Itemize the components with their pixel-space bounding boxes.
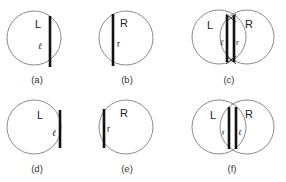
- region-label: R: [120, 17, 128, 29]
- segment-label-right: r: [236, 38, 239, 47]
- region-label: L: [37, 109, 43, 121]
- panel-e: R r (e): [99, 100, 153, 174]
- segment-label: ℓ: [38, 41, 42, 51]
- panel-a: L ℓ (a): [7, 11, 61, 85]
- panel-d: L ℓ (d): [7, 100, 61, 174]
- region-label-right: R: [245, 18, 253, 30]
- segment-label: ℓ: [52, 128, 56, 138]
- caption: (f): [228, 163, 237, 174]
- diagram-canvas: L ℓ (a) R r (b) L R ℓ r (c) L ℓ (d): [0, 0, 286, 182]
- circle-left: [192, 10, 246, 64]
- region-label: R: [120, 107, 128, 119]
- segment-label-right: ℓ: [238, 128, 242, 137]
- panel-c: L R ℓ r (c): [192, 10, 274, 85]
- caption: (e): [121, 163, 133, 174]
- caption: (d): [31, 163, 43, 174]
- circle-left: [7, 100, 61, 154]
- segment-label: r: [107, 124, 110, 134]
- circle-left: [192, 100, 246, 154]
- panel-f: L R r ℓ (f): [192, 100, 274, 174]
- region-label-right: R: [245, 108, 253, 120]
- segment-label: r: [117, 39, 120, 49]
- panel-b: R r (b): [99, 11, 153, 85]
- segment-label-left: ℓ: [220, 38, 224, 47]
- region-label-left: L: [207, 19, 213, 31]
- region-label: L: [35, 18, 41, 30]
- caption: (c): [223, 74, 234, 85]
- caption: (a): [31, 74, 43, 85]
- circle-left: [7, 11, 61, 65]
- segment-label-left: r: [222, 128, 225, 137]
- caption: (b): [121, 74, 133, 85]
- region-label-left: L: [210, 109, 216, 121]
